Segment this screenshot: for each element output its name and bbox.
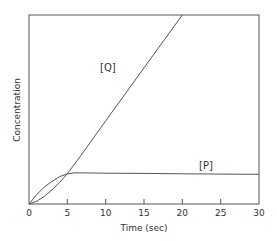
x-tick-label: 0 [26,208,32,218]
x-tick-label: 30 [253,208,265,218]
y-axis-label: Concentration [12,78,22,142]
x-axis-tick-labels: 051015202530 [26,208,265,218]
series-q-line [29,15,182,204]
x-tick-label: 5 [64,208,70,218]
chart: 051015202530 [Q] [P] Time (sec) Concentr… [0,0,277,241]
x-axis-label: Time (sec) [119,223,167,233]
x-tick-label: 20 [177,208,189,218]
x-tick-label: 15 [138,208,149,218]
series-p-label: [P] [199,160,213,171]
x-axis-ticks [67,199,220,204]
series-q-label: [Q] [100,62,116,73]
x-tick-label: 10 [100,208,112,218]
x-tick-label: 25 [215,208,226,218]
